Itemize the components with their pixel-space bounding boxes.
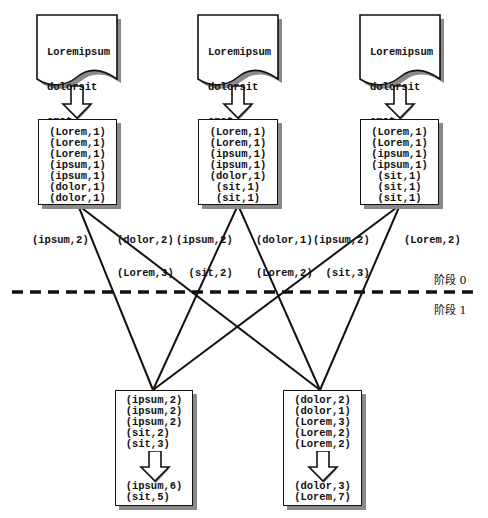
mapreduce-diagram: Loremipsum dolorsit amet ... Loremipsum … bbox=[0, 0, 488, 518]
edge-label-m0-r1: (dolor,2) (Lorem,3) bbox=[117, 213, 174, 301]
map-box-1: (Lorem,1) (Lorem,1) (Lorem,1) (ipsum,1) … bbox=[38, 119, 117, 205]
edge-label-m0-r0: (ipsum,2) bbox=[32, 213, 89, 268]
edge-label-m1-r0: (ipsum,2) (sit,2) bbox=[176, 213, 233, 301]
reduce-box-1: (ipsum,2) (ipsum,2) (ipsum,2) (sit,2) (s… bbox=[115, 390, 193, 506]
phase-1-label: 阶段 1 bbox=[434, 301, 467, 317]
phase-0-label: 阶段 0 bbox=[434, 271, 467, 287]
edge-label-m2-r1: (Lorem,2) bbox=[404, 213, 461, 268]
edge-label-m2-r0: (ipsum,2) (sit,3) bbox=[313, 213, 370, 301]
map-box-3: (Lorem,1) (Lorem,1) (ipsum,1) (ipsum,1) … bbox=[360, 119, 439, 205]
reduce-box-2: (dolor,2) (dolor,1) (Lorem,3) (Lorem,2) … bbox=[283, 390, 362, 506]
map-box-2: (Lorem,1) (Lorem,1) (ipsum,1) (ipsum,1) … bbox=[198, 119, 278, 205]
edge-label-m1-r1: (dolor,1) (Lorem,2) bbox=[256, 213, 313, 301]
